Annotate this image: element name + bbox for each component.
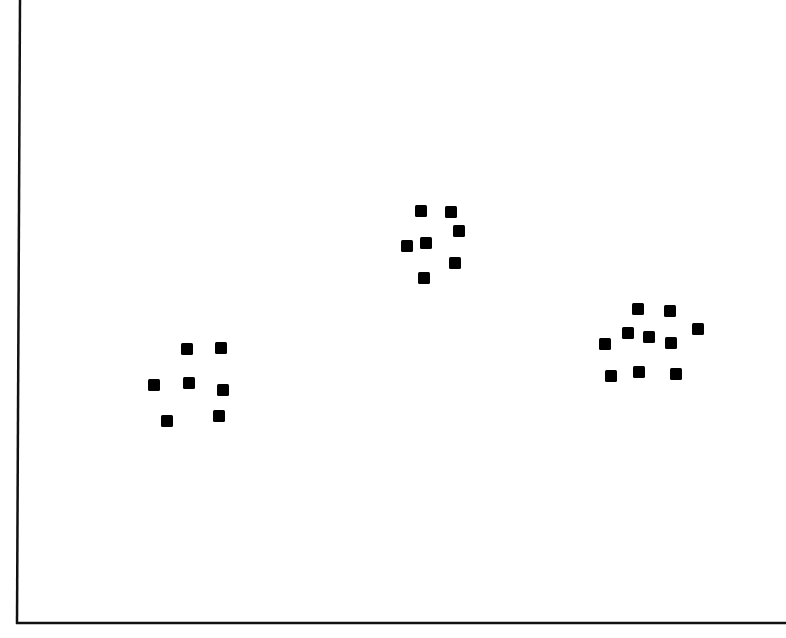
data-point (605, 370, 617, 382)
data-point (445, 206, 457, 218)
data-point (632, 303, 644, 315)
data-point (449, 257, 461, 269)
data-point (453, 225, 465, 237)
data-point (213, 410, 225, 422)
cluster-2 (401, 205, 465, 284)
cluster-1 (148, 342, 229, 427)
data-point (181, 343, 193, 355)
data-point (633, 366, 645, 378)
cluster-3 (599, 303, 704, 382)
data-point (692, 323, 704, 335)
data-point (665, 337, 677, 349)
data-point (415, 205, 427, 217)
data-point (418, 272, 430, 284)
data-point (148, 379, 160, 391)
data-point (643, 331, 655, 343)
data-point (420, 237, 432, 249)
data-point (670, 368, 682, 380)
data-point (215, 342, 227, 354)
data-point (664, 305, 676, 317)
data-point (183, 377, 195, 389)
data-point (599, 338, 611, 350)
data-point (217, 384, 229, 396)
data-points (148, 205, 704, 427)
data-point (161, 415, 173, 427)
scatter-plot (0, 0, 786, 638)
data-point (401, 240, 413, 252)
y-axis (17, 0, 20, 624)
data-point (622, 327, 634, 339)
